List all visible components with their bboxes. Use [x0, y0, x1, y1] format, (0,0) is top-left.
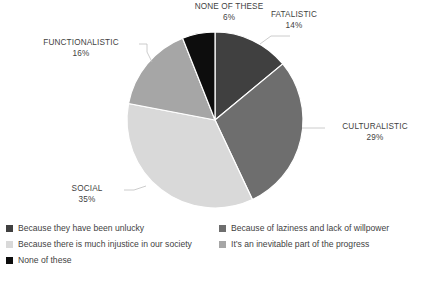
- pie-slice-group: [127, 32, 303, 208]
- leader-line-social: [124, 186, 146, 190]
- legend-label: Because of laziness and lack of willpowe…: [231, 223, 389, 234]
- legend-row: Because there is much injustice in our s…: [6, 236, 430, 252]
- legend-swatch-icon: [219, 225, 226, 232]
- legend-row: Because they have been unlucky Because o…: [6, 220, 430, 236]
- legend-item-none-of-these[interactable]: None of these: [6, 252, 219, 268]
- legend-swatch-icon: [6, 225, 13, 232]
- legend-label: It’s an inevitable part of the progress: [231, 239, 369, 250]
- legend-item-unlucky[interactable]: Because they have been unlucky: [6, 220, 219, 236]
- legend-item-laziness[interactable]: Because of laziness and lack of willpowe…: [219, 220, 430, 236]
- legend-label: Because they have been unlucky: [18, 223, 144, 234]
- leader-line-fatalistic: [260, 36, 290, 44]
- legend-item-inevitable[interactable]: It’s an inevitable part of the progress: [219, 236, 430, 252]
- legend-swatch-icon: [219, 241, 226, 248]
- legend-label: None of these: [18, 255, 72, 266]
- chart-legend: Because they have been unlucky Because o…: [6, 220, 430, 268]
- legend-label: Because there is much injustice in our s…: [18, 239, 192, 250]
- legend-swatch-icon: [6, 257, 13, 264]
- pie-chart-figure: NONE OF THESE 6% FATALISTIC 14% CULTURAL…: [0, 0, 433, 282]
- legend-swatch-icon: [6, 241, 13, 248]
- legend-row: None of these: [6, 252, 430, 268]
- leader-line-functionalistic: [139, 44, 152, 62]
- legend-item-injustice[interactable]: Because there is much injustice in our s…: [6, 236, 219, 252]
